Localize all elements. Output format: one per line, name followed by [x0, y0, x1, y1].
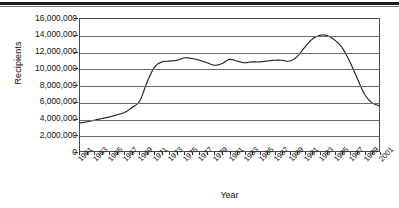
y-tick-mark — [74, 68, 78, 69]
y-tick-label: 10,000,000 — [3, 64, 77, 72]
gridline — [80, 36, 379, 37]
y-tick-mark — [74, 18, 78, 19]
y-tick-label: 2,000,000 — [3, 131, 77, 139]
gridline — [80, 86, 379, 87]
y-tick-label: 14,000,000 — [3, 30, 77, 38]
gridline — [80, 120, 379, 121]
plot-area — [79, 18, 380, 152]
y-tick-mark — [74, 52, 78, 53]
y-tick-label: 16,000,000 — [3, 14, 77, 22]
y-tick-mark — [74, 35, 78, 36]
y-tick-mark — [74, 152, 78, 153]
y-tick-mark — [74, 119, 78, 120]
chart-figure: Recipients 02,000,0004,000,0006,000,0008… — [0, 0, 399, 208]
x-axis-title: Year — [79, 190, 380, 200]
y-tick-label: 0 — [3, 148, 77, 156]
gridline — [80, 53, 379, 54]
y-tick-mark — [74, 102, 78, 103]
gridline — [80, 103, 379, 104]
y-axis-ticks: 02,000,0004,000,0006,000,0008,000,00010,… — [0, 0, 77, 208]
y-tick-mark — [74, 135, 78, 136]
y-tick-label: 4,000,000 — [3, 114, 77, 122]
gridline — [80, 136, 379, 137]
y-tick-label: 6,000,000 — [3, 97, 77, 105]
y-tick-label: 8,000,000 — [3, 81, 77, 89]
line-series — [80, 19, 379, 151]
y-tick-label: 12,000,000 — [3, 47, 77, 55]
y-tick-mark — [74, 85, 78, 86]
x-axis-ticks: 1961196319651967196919711973197519771979… — [79, 152, 380, 192]
gridline — [80, 69, 379, 70]
